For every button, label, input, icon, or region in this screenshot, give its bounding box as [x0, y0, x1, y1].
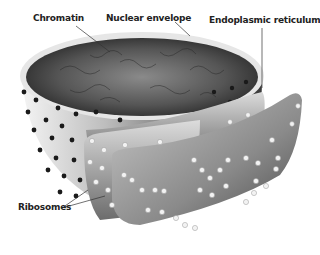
label-endoplasmic-reticulum: Endoplasmic reticulum — [209, 15, 320, 25]
label-chromatin: Chromatin — [33, 13, 84, 23]
label-nuclear-envelope: Nuclear envelope — [106, 13, 191, 23]
label-ribosomes: Ribosomes — [18, 202, 71, 212]
nucleus-illustration — [0, 0, 320, 255]
